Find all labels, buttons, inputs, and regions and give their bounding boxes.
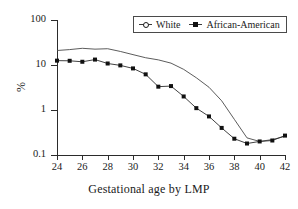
data-point-african-american: [55, 59, 59, 63]
data-point-african-american: [156, 85, 160, 89]
data-point-african-american: [131, 66, 135, 70]
data-point-african-american: [182, 94, 186, 98]
chart-figure: 1001010.1 24262830323436384042 % Gestati…: [0, 0, 298, 209]
data-point-african-american: [68, 59, 72, 63]
line-series-white: [57, 48, 285, 141]
data-point-african-american: [169, 84, 173, 88]
line-series-african-american: [57, 60, 285, 144]
data-point-african-american: [258, 139, 262, 143]
markers-african-american: [55, 58, 287, 146]
data-point-african-american: [207, 114, 211, 118]
data-point-african-american: [232, 137, 236, 141]
data-point-african-american: [144, 72, 148, 76]
data-point-african-american: [245, 142, 249, 146]
data-point-african-american: [220, 126, 224, 130]
data-point-african-american: [80, 60, 84, 64]
series-plot: [0, 0, 298, 209]
data-point-african-american: [270, 139, 274, 143]
data-point-african-american: [283, 134, 287, 138]
data-point-african-american: [118, 63, 122, 67]
data-point-african-american: [93, 58, 97, 62]
data-point-african-american: [194, 106, 198, 110]
data-point-african-american: [106, 62, 110, 66]
